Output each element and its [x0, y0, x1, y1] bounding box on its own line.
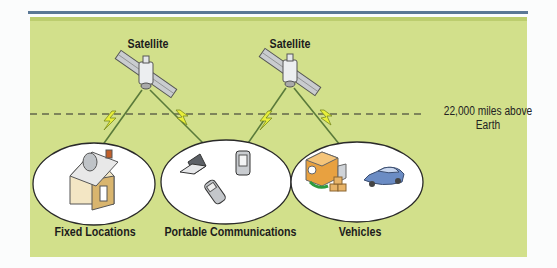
portable-communications-label: Portable Communications — [164, 224, 295, 239]
lightning-bolt-icons — [104, 110, 332, 130]
pda-icon — [236, 151, 250, 175]
satellite-label-2: Satellite — [257, 36, 323, 51]
altitude-label: 22,000 miles above Earth — [429, 104, 548, 132]
altitude-label-line2: Earth — [429, 118, 548, 132]
fixed-locations-label: Fixed Locations — [42, 224, 149, 239]
satellite-label-1: Satellite — [115, 36, 181, 51]
altitude-label-line1: 22,000 miles above — [429, 104, 548, 118]
vehicles-label: Vehicles — [327, 224, 393, 239]
satellite-icon — [115, 50, 176, 97]
portable-communications-ellipse — [161, 140, 291, 224]
satellite-icon — [259, 48, 320, 95]
